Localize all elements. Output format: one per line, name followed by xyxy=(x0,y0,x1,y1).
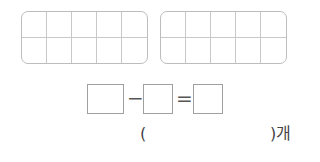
frame-cell xyxy=(22,38,47,64)
frame-cell xyxy=(72,12,97,38)
answer-open-paren: ( xyxy=(140,124,146,144)
frame-cell xyxy=(122,12,147,38)
frame-cell xyxy=(97,12,122,38)
frame-cell xyxy=(236,12,261,38)
frame-cell xyxy=(72,38,97,64)
difference-input-box[interactable] xyxy=(193,84,223,114)
frame-cell xyxy=(236,38,261,64)
frame-cell xyxy=(97,38,122,64)
frame-cell xyxy=(47,12,72,38)
frame-cell xyxy=(161,12,186,38)
frame-cell xyxy=(211,12,236,38)
equals-sign: = xyxy=(176,86,193,110)
frame-cell xyxy=(161,38,186,64)
frame-cell xyxy=(261,38,286,64)
frame-cell xyxy=(211,38,236,64)
frame-cell xyxy=(186,12,211,38)
frame-cell xyxy=(22,12,47,38)
frame-cell xyxy=(186,38,211,64)
ten-frame-left xyxy=(21,11,148,64)
subtrahend-input-box[interactable] xyxy=(143,84,173,114)
ten-frame-right xyxy=(160,11,287,64)
frame-cell xyxy=(261,12,286,38)
frame-cell xyxy=(122,38,147,64)
minuend-input-box[interactable] xyxy=(87,84,124,114)
frame-cell xyxy=(47,38,72,64)
minus-sign: − xyxy=(127,86,144,110)
answer-unit-label: )개 xyxy=(270,124,291,144)
